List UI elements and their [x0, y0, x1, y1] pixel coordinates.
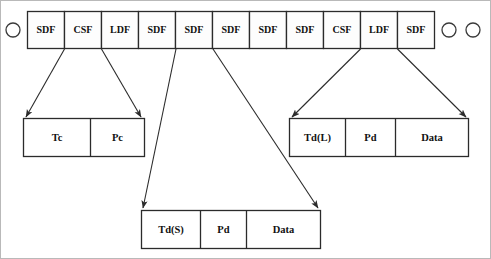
frame-cell-2-label: LDF	[110, 24, 130, 35]
ldf-field-data-label: Data	[421, 132, 443, 143]
ldf-field-pd-label: Pd	[364, 132, 376, 143]
leader-ldf-right	[398, 49, 467, 117]
leader-csf-right	[102, 49, 142, 117]
frame-structure-diagram: SDF CSF LDF SDF SDF SDF SDF SDF CSF LDF …	[0, 0, 491, 259]
frame-cell-8-label: CSF	[333, 24, 352, 35]
frame-cell-6-label: SDF	[259, 24, 278, 35]
frame-cell-7-label: SDF	[296, 24, 315, 35]
sdf-field-data-label: Data	[273, 224, 295, 235]
frame-cell-1-label: CSF	[74, 24, 93, 35]
sdf-field-pd-label: Pd	[217, 224, 229, 235]
frame-cell-5-label: SDF	[222, 24, 241, 35]
csf-field-tc-label: Tc	[52, 132, 63, 143]
leader-csf-left	[26, 49, 65, 117]
frame-cell-9-label: LDF	[369, 24, 389, 35]
ldf-field-tdl-label: Td(L)	[304, 132, 331, 144]
node-circle-right-1	[442, 23, 456, 37]
csf-expansion: Tc Pc	[24, 119, 145, 157]
sdf-short-expansion: Td(S) Pd Data	[142, 211, 321, 249]
node-circle-left	[6, 23, 20, 37]
leader-ldf-left	[292, 49, 361, 117]
leader-sdf-left	[143, 49, 176, 208]
node-circle-right-2	[466, 23, 480, 37]
sdf-field-tds-label: Td(S)	[158, 224, 184, 236]
csf-field-pc-label: Pc	[112, 132, 123, 143]
ldf-expansion: Td(L) Pd Data	[290, 119, 469, 157]
frame-cell-3-label: SDF	[148, 24, 167, 35]
csf-expansion-box[interactable]	[24, 119, 145, 157]
frame-cell-4-label: SDF	[185, 24, 204, 35]
frame-strip: SDF CSF LDF SDF SDF SDF SDF SDF CSF LDF …	[28, 12, 435, 49]
frame-cell-10-label: SDF	[407, 24, 426, 35]
diagram-canvas: SDF CSF LDF SDF SDF SDF SDF SDF CSF LDF …	[0, 0, 491, 259]
frame-cell-0-label: SDF	[37, 24, 56, 35]
